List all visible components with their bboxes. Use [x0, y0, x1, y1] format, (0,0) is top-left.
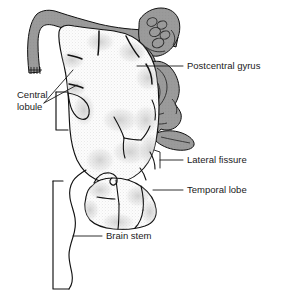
brain-anatomy-figure: Postcentral gyrus Central lobule Lateral…	[0, 0, 281, 302]
label-temporal-lobe: Temporal lobe	[187, 184, 247, 195]
label-lateral-fissure: Lateral fissure	[187, 154, 247, 165]
label-central-lobule-line2: lobule	[17, 101, 42, 112]
brain-stem-structure	[53, 170, 86, 289]
label-postcentral-gyrus: Postcentral gyrus	[187, 60, 261, 71]
temporal-lobe-structure	[80, 173, 160, 232]
brain-diagram-svg: Postcentral gyrus Central lobule Lateral…	[0, 0, 281, 302]
label-central-lobule-line1: Central	[17, 89, 48, 100]
label-brain-stem: Brain stem	[106, 230, 151, 241]
label-central-lobule: Central lobule	[17, 89, 48, 112]
cerebral-cortex-structure	[58, 25, 162, 183]
